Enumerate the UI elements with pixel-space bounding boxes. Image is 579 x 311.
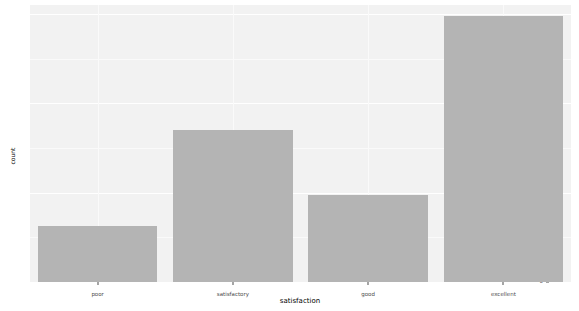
x-tick-label: satisfactory [217, 292, 249, 298]
x-tick-mark [97, 282, 98, 285]
x-tick-mark [503, 282, 504, 285]
x-axis-title: satisfaction [280, 297, 320, 305]
x-tick-label: poor [91, 292, 103, 298]
x-tick-mark [368, 282, 369, 285]
plot-panel [30, 5, 571, 282]
bar-satisfactory [173, 130, 293, 282]
bar-poor [38, 226, 158, 282]
bar-excellent [444, 16, 564, 282]
y-axis-title: count [9, 147, 16, 164]
bar-chart: count 0204060 poorsatisfactorygoodexcell… [0, 0, 579, 311]
x-tick-label: excellent [491, 292, 516, 298]
bar-good [308, 195, 428, 282]
gridline-major [30, 14, 571, 15]
x-tick-label: good [361, 292, 375, 298]
x-tick-mark [232, 282, 233, 285]
